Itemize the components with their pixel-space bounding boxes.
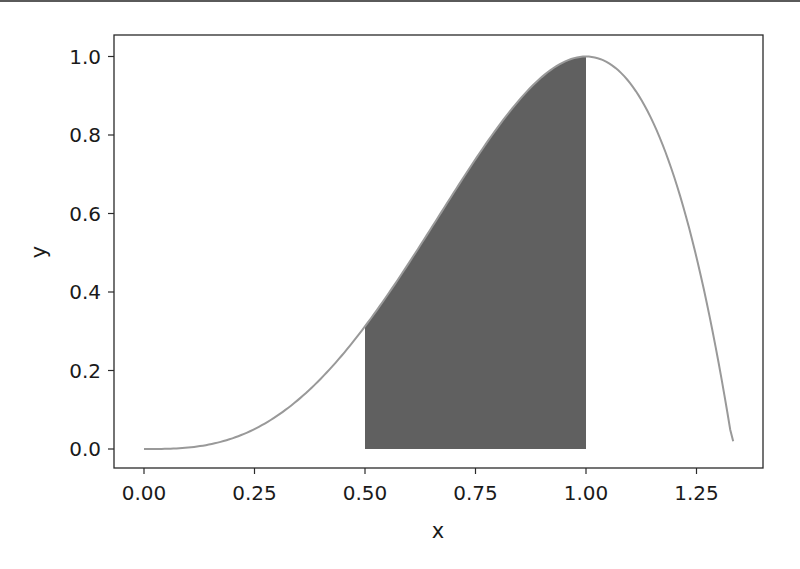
y-tick-label: 0.4 (69, 280, 101, 304)
y-axis-ticks: 0.00.20.40.60.81.0 (69, 45, 114, 462)
x-tick-label: 1.25 (674, 481, 719, 505)
chart: 0.000.250.500.751.001.25 0.00.20.40.60.8… (0, 0, 800, 569)
y-tick-label: 0.2 (69, 359, 101, 383)
x-tick-label: 0.25 (232, 481, 277, 505)
x-axis-ticks: 0.000.250.500.751.001.25 (122, 468, 719, 505)
y-tick-label: 0.0 (69, 437, 101, 461)
x-tick-label: 0.00 (122, 481, 167, 505)
shaded-area (365, 57, 586, 450)
x-tick-label: 0.50 (343, 481, 388, 505)
x-axis-label: x (432, 519, 444, 543)
y-axis-label: y (27, 246, 51, 258)
y-tick-label: 1.0 (69, 45, 101, 69)
y-tick-label: 0.6 (69, 202, 101, 226)
x-tick-label: 1.00 (564, 481, 609, 505)
y-tick-label: 0.8 (69, 123, 101, 147)
x-tick-label: 0.75 (453, 481, 498, 505)
